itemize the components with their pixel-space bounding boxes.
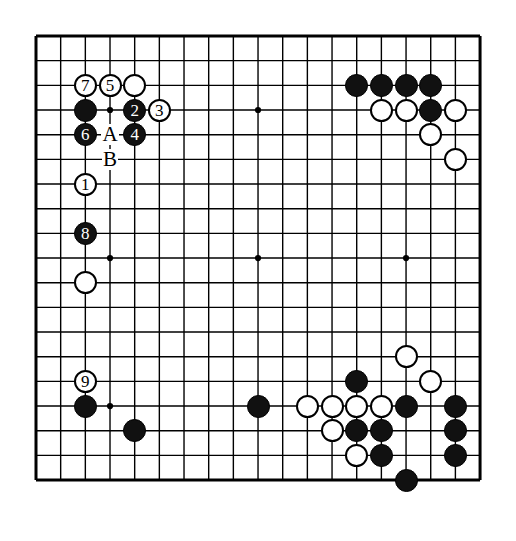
stone-black[interactable]	[444, 444, 467, 467]
star-point	[107, 403, 113, 409]
stone-black[interactable]	[395, 395, 418, 418]
move-stone-6[interactable]: 6	[74, 123, 97, 146]
stone-white[interactable]	[296, 395, 319, 418]
move-stone-7[interactable]: 7	[74, 74, 97, 97]
stone-white[interactable]	[395, 345, 418, 368]
move-stone-1[interactable]: 1	[74, 173, 97, 196]
star-point	[255, 107, 261, 113]
stone-black[interactable]	[419, 74, 442, 97]
stone-move-number: 6	[81, 126, 90, 143]
stone-move-number: 9	[81, 372, 90, 389]
stone-white[interactable]	[345, 444, 368, 467]
star-point	[255, 255, 261, 261]
stone-move-number: 7	[81, 76, 90, 93]
stone-black[interactable]	[74, 395, 97, 418]
stone-black[interactable]	[444, 395, 467, 418]
stone-black[interactable]	[419, 99, 442, 122]
stone-move-number: 1	[81, 175, 90, 192]
stone-white[interactable]	[444, 148, 467, 171]
stone-move-number: 2	[130, 101, 139, 118]
move-stone-9[interactable]: 9	[74, 370, 97, 393]
stone-white[interactable]	[395, 99, 418, 122]
move-stone-5[interactable]: 5	[99, 74, 122, 97]
move-stone-2[interactable]: 2	[123, 99, 146, 122]
star-point	[107, 255, 113, 261]
stone-white[interactable]	[123, 74, 146, 97]
stone-white[interactable]	[345, 395, 368, 418]
stone-black[interactable]	[395, 469, 418, 492]
stone-black[interactable]	[444, 419, 467, 442]
stone-black[interactable]	[395, 74, 418, 97]
stone-black[interactable]	[370, 74, 393, 97]
star-point	[107, 107, 113, 113]
stone-white[interactable]	[370, 99, 393, 122]
point-label-b: B	[99, 148, 122, 171]
move-stone-8[interactable]: 8	[74, 222, 97, 245]
stone-black[interactable]	[345, 370, 368, 393]
stone-move-number: 4	[130, 126, 139, 143]
go-diagram: 123456789AB	[0, 0, 516, 541]
star-point	[403, 255, 409, 261]
stone-white[interactable]	[370, 395, 393, 418]
stone-white[interactable]	[444, 99, 467, 122]
point-label-a: A	[99, 123, 122, 146]
stone-black[interactable]	[345, 74, 368, 97]
move-stone-3[interactable]: 3	[148, 99, 171, 122]
stone-black[interactable]	[247, 395, 270, 418]
stone-white[interactable]	[74, 271, 97, 294]
point-label-text: B	[102, 149, 118, 170]
stone-move-number: 3	[155, 101, 164, 118]
stone-move-number: 8	[81, 224, 90, 241]
stone-black[interactable]	[370, 444, 393, 467]
stone-black[interactable]	[370, 419, 393, 442]
stone-white[interactable]	[419, 370, 442, 393]
stone-move-number: 5	[106, 76, 115, 93]
stone-white[interactable]	[321, 395, 344, 418]
stone-black[interactable]	[74, 99, 97, 122]
stone-white[interactable]	[321, 419, 344, 442]
point-label-text: A	[101, 124, 118, 145]
